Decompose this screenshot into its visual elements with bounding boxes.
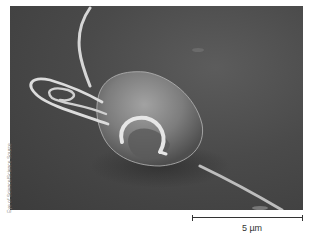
flagellum-loop-1	[31, 79, 108, 124]
debris	[192, 48, 204, 52]
protist-cell-illustration	[10, 6, 303, 210]
axostyle	[200, 166, 282, 210]
image-credit: Eye of Science/Science Source	[6, 143, 12, 213]
scale-bar-line	[192, 217, 303, 218]
scale-bar-tick-right	[302, 215, 303, 221]
scale-bar-tick-left	[192, 215, 193, 221]
sem-micrograph	[10, 6, 303, 210]
flagellum-top	[79, 8, 90, 86]
scale-bar	[192, 215, 303, 221]
scale-bar-label: 5 µm	[232, 223, 272, 233]
